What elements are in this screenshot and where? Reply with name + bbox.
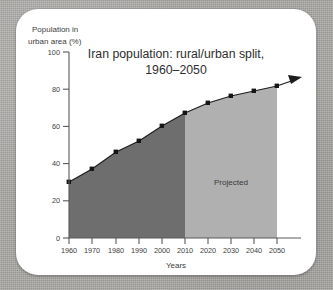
area-projected: [185, 86, 277, 238]
x-tick-1980: 1980: [108, 246, 124, 255]
y-axis-label-line2: urban area (%): [28, 37, 82, 46]
population-area-chart: Population in urban area (%) Iran popula…: [16, 9, 316, 275]
y-tick-20: 20: [52, 196, 60, 205]
x-tick-2010: 2010: [177, 246, 193, 255]
y-tick-80: 80: [52, 85, 60, 94]
area-historical: [69, 113, 185, 238]
y-tick-100: 100: [48, 48, 60, 57]
projected-region-label: Projected: [214, 178, 248, 187]
chart-figure: Population in urban area (%) Iran popula…: [16, 9, 316, 275]
chart-title-line2: 1960–2050: [145, 63, 207, 77]
y-tick-60: 60: [52, 122, 60, 131]
x-tick-2030: 2030: [223, 246, 239, 255]
x-tick-2050: 2050: [269, 246, 285, 255]
chart-title-line1: Iran population: rural/urban split,: [88, 47, 264, 61]
x-axis-label: Years: [166, 261, 186, 270]
y-axis-label-line1: Population in: [32, 25, 78, 34]
trend-arrow-icon: [277, 75, 302, 86]
y-axis-ticks: 0 20 40 60 80 100: [48, 48, 69, 243]
x-tick-1960: 1960: [61, 246, 77, 255]
x-tick-2040: 2040: [246, 246, 262, 255]
x-axis-ticks: 1960 1970 1980 1990 2000 2010 2020 2030 …: [61, 238, 285, 255]
y-tick-40: 40: [52, 159, 60, 168]
y-tick-0: 0: [56, 234, 60, 243]
x-tick-1990: 1990: [131, 246, 147, 255]
chart-card: Population in urban area (%) Iran popula…: [16, 9, 316, 275]
x-tick-2000: 2000: [154, 246, 170, 255]
x-tick-1970: 1970: [84, 246, 100, 255]
x-tick-2020: 2020: [200, 246, 216, 255]
